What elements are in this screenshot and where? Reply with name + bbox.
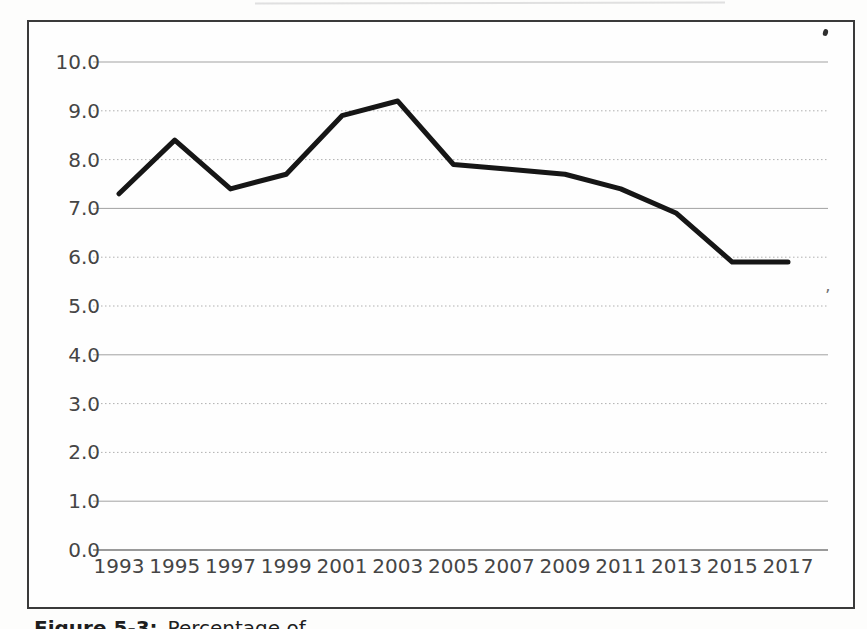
- x-tick-label: 1999: [261, 554, 312, 578]
- book-page: 0.01.02.03.04.05.06.07.08.09.010.0 19931…: [0, 0, 867, 629]
- x-tick-label: 2011: [595, 554, 646, 578]
- y-tick-label: 7.0: [68, 196, 100, 220]
- y-tick-label: 10.0: [55, 50, 100, 74]
- y-tick-label: 5.0: [68, 294, 100, 318]
- y-tick-label: 6.0: [68, 245, 100, 269]
- y-tick-label: 8.0: [68, 148, 100, 172]
- x-tick-label: 2003: [372, 554, 423, 578]
- x-tick-label: 2013: [651, 554, 702, 578]
- figure-caption-text: Percentage of ...: [168, 616, 332, 629]
- x-tick-label: 2017: [763, 554, 814, 578]
- figure-caption: Figure 5-3:Percentage of ...: [34, 616, 834, 629]
- y-tick-label: 3.0: [68, 392, 100, 416]
- x-tick-label: 1995: [149, 554, 200, 578]
- x-tick-label: 2009: [540, 554, 591, 578]
- y-axis-labels: 0.01.02.03.04.05.06.07.08.09.010.0: [55, 50, 100, 562]
- y-tick-label: 1.0: [68, 489, 100, 513]
- x-tick-label: 1997: [205, 554, 256, 578]
- x-axis-labels: 1993199519971999200120032005200720092011…: [94, 554, 814, 578]
- x-tick-label: 1993: [94, 554, 145, 578]
- y-tick-label: 9.0: [68, 99, 100, 123]
- figure-frame: 0.01.02.03.04.05.06.07.08.09.010.0 19931…: [27, 20, 855, 609]
- x-tick-label: 2015: [707, 554, 758, 578]
- line-chart: 0.01.02.03.04.05.06.07.08.09.010.0 19931…: [29, 22, 849, 603]
- figure-caption-label: Figure 5-3:: [34, 616, 158, 629]
- gridlines: [93, 62, 828, 550]
- y-tick-label: 2.0: [68, 440, 100, 464]
- scan-smudge: [255, 1, 725, 4]
- x-tick-label: 2007: [484, 554, 535, 578]
- scan-apostrophe-artifact: ’: [825, 288, 830, 305]
- trend-line: [119, 101, 788, 262]
- y-tick-label: 4.0: [68, 343, 100, 367]
- x-tick-label: 2005: [428, 554, 479, 578]
- x-tick-label: 2001: [317, 554, 368, 578]
